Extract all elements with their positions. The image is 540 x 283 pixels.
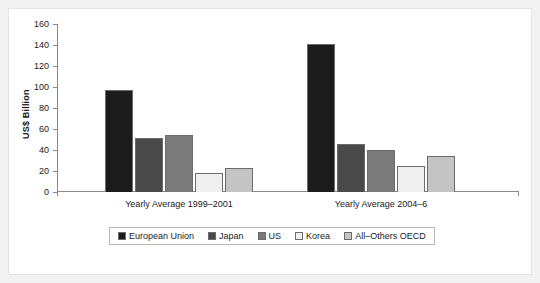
y-axis-tick-mark	[53, 45, 57, 46]
legend-swatch-icon	[344, 232, 352, 240]
y-axis-tick-mark	[53, 150, 57, 151]
legend-swatch-icon	[295, 232, 303, 240]
y-axis-tick-mark	[53, 108, 57, 109]
x-axis-category-label: Yearly Average 1999–2001	[105, 199, 253, 209]
bar	[397, 166, 425, 192]
legend-label: Korea	[306, 231, 330, 241]
chart-frame: US$ Billion 160140120100806040200 Yearly…	[0, 0, 540, 283]
y-axis-tick-label: 60	[39, 124, 53, 133]
legend-label: European Union	[129, 231, 194, 241]
y-axis-tick-label: 20	[39, 166, 53, 175]
chart-canvas: US$ Billion 160140120100806040200 Yearly…	[8, 8, 532, 275]
bar-group	[307, 24, 455, 192]
x-axis-tick-middle	[57, 192, 58, 196]
chart-legend: European UnionJapanUSKoreaAll–Others OEC…	[109, 227, 435, 245]
y-axis-tick-label: 120	[34, 61, 53, 70]
y-axis-title: US$ Billion	[17, 59, 35, 169]
bar	[307, 44, 335, 192]
bar	[105, 90, 133, 192]
y-axis-tick-mark	[53, 24, 57, 25]
legend-swatch-icon	[208, 232, 216, 240]
legend-item[interactable]: US	[258, 231, 282, 241]
y-axis-tick-mark	[53, 192, 57, 193]
y-axis-tick-label: 80	[39, 103, 53, 112]
bar	[165, 135, 193, 192]
legend-label: US	[269, 231, 282, 241]
legend-item[interactable]: Japan	[208, 231, 244, 241]
x-axis-category-label: Yearly Average 2004–6	[307, 199, 455, 209]
bar	[427, 156, 455, 192]
plot-area: 160140120100806040200	[57, 24, 519, 192]
y-axis-tick-mark	[53, 87, 57, 88]
bar	[225, 168, 253, 192]
y-axis-tick-label: 140	[34, 40, 53, 49]
y-axis-tick-mark	[53, 66, 57, 67]
legend-item[interactable]: Korea	[295, 231, 330, 241]
legend-label: All–Others OECD	[355, 231, 426, 241]
legend-swatch-icon	[118, 232, 126, 240]
y-axis-tick-mark	[53, 129, 57, 130]
y-axis-tick-mark	[53, 171, 57, 172]
y-axis-tick-label: 160	[34, 19, 53, 28]
y-axis-tick-label: 40	[39, 145, 53, 154]
y-axis-tick-label: 0	[44, 187, 53, 196]
legend-label: Japan	[219, 231, 244, 241]
y-axis-tick-label: 100	[34, 82, 53, 91]
bar	[337, 144, 365, 192]
bar	[195, 173, 223, 192]
legend-swatch-icon	[258, 232, 266, 240]
legend-item[interactable]: European Union	[118, 231, 194, 241]
bar-group	[105, 24, 253, 192]
bar	[367, 150, 395, 192]
legend-item[interactable]: All–Others OECD	[344, 231, 426, 241]
y-axis-line	[57, 24, 58, 192]
bar	[135, 138, 163, 192]
x-axis-tick-right	[518, 192, 519, 196]
